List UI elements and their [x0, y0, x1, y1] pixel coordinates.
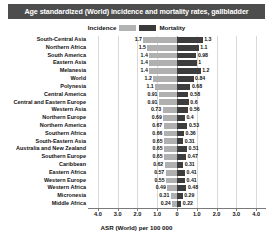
value-label-mortality: 0.4: [186, 114, 193, 122]
value-label-incidence: 0.73: [151, 106, 161, 114]
bar-incidence: [164, 146, 177, 152]
bar-mortality: [177, 185, 186, 191]
bar-area: 1.10.68: [88, 83, 266, 91]
value-label-mortality: 0.68: [192, 83, 202, 91]
chart-legend: Incidence Mortality: [0, 24, 273, 31]
axis-tick-label: 0: [175, 211, 178, 217]
bar-area: 0.620.31: [88, 161, 266, 169]
bar-area: 0.550.41: [88, 177, 266, 185]
chart-row: Eastern Asia1.41: [0, 59, 273, 67]
value-label-incidence: 0.55: [155, 177, 165, 185]
bar-incidence: [166, 178, 177, 184]
axis-tick-label: 3.0: [232, 211, 240, 217]
value-label-incidence: 1.4: [141, 59, 148, 67]
chart-row: Central and Eastern Europe0.910.6: [0, 99, 273, 107]
x-axis: 4.03.02.01.001.02.03.04.0: [88, 208, 266, 209]
bar-rows: South-Central Asia1.71.3Northern Africa1…: [0, 36, 273, 208]
value-label-incidence: 1.2: [145, 75, 152, 83]
bar-mortality: [177, 131, 184, 137]
chart-row: Micronesia0.310.29: [0, 192, 273, 200]
value-label-mortality: 0.31: [185, 138, 195, 146]
bar-mortality: [177, 76, 194, 82]
bar-incidence: [149, 60, 177, 66]
category-label: World: [0, 75, 86, 83]
value-label-incidence: 1.7: [135, 36, 142, 44]
bar-incidence: [155, 84, 177, 90]
bar-incidence: [149, 53, 177, 59]
bar-area: 0.670.53: [88, 122, 266, 130]
chart-row: Western Africa0.490.48: [0, 184, 273, 192]
bar-incidence: [166, 170, 177, 176]
value-label-incidence: 0.62: [153, 161, 163, 169]
value-label-incidence: 0.65: [153, 153, 163, 161]
category-label: Southern Europe: [0, 153, 86, 161]
bar-area: 1.20.84: [88, 75, 266, 83]
chart-row: Polynesia1.10.68: [0, 83, 273, 91]
category-label: Southern Africa: [0, 130, 86, 138]
category-label: Northern Africa: [0, 44, 86, 52]
category-label: Australia and New Zealand: [0, 145, 86, 153]
bar-mortality: [177, 170, 185, 176]
category-label: Eastern Africa: [0, 169, 86, 177]
bar-area: 0.730.56: [88, 106, 266, 114]
chart-row: Southern Africa0.660.36: [0, 130, 273, 138]
legend-label-mortality: Mortality: [159, 24, 185, 31]
bar-mortality: [177, 193, 183, 199]
category-label: Eastern Asia: [0, 59, 86, 67]
bar-area: 0.490.48: [88, 184, 266, 192]
axis-tick-label: 3.0: [114, 211, 122, 217]
bar-mortality: [177, 84, 190, 90]
category-label: Western Africa: [0, 184, 86, 192]
bar-incidence: [163, 107, 177, 113]
bar-incidence: [164, 138, 177, 144]
bar-mortality: [177, 115, 185, 121]
value-label-mortality: 0.48: [188, 184, 198, 192]
category-label: Central America: [0, 91, 86, 99]
category-label: Northern Europe: [0, 114, 86, 122]
value-label-incidence: 0.65: [153, 138, 163, 146]
legend-label-incidence: Incidence: [88, 24, 117, 31]
bar-incidence: [147, 45, 177, 51]
value-label-mortality: 1: [198, 59, 201, 67]
bar-mortality: [177, 138, 183, 144]
category-label: Micronesia: [0, 192, 86, 200]
bar-area: 0.310.29: [88, 192, 266, 200]
bar-area: 1.41.2: [88, 67, 266, 75]
bar-area: 0.910.6: [88, 99, 266, 107]
bar-area: 0.660.36: [88, 130, 266, 138]
chart-row: Australia and New Zealand0.650.51: [0, 145, 273, 153]
value-label-incidence: 0.57: [154, 169, 164, 177]
bar-area: 0.650.51: [88, 145, 266, 153]
bar-mortality: [177, 99, 189, 105]
chart-row: World1.20.84: [0, 75, 273, 83]
value-label-incidence: 0.65: [153, 145, 163, 153]
bar-mortality: [177, 60, 197, 66]
value-label-incidence: 1.4: [141, 67, 148, 75]
chart-container: Age standardized (World) incidence and m…: [0, 0, 273, 237]
category-label: South America: [0, 52, 86, 60]
bar-area: 1.51.1: [88, 44, 266, 52]
bar-incidence: [159, 92, 177, 98]
category-label: Caribbean: [0, 161, 86, 169]
chart-row: Western Europe0.550.41: [0, 177, 273, 185]
value-label-mortality: 0.22: [183, 200, 193, 208]
bar-area: 0.650.31: [88, 138, 266, 146]
value-label-mortality: 1.3: [204, 36, 211, 44]
value-label-incidence: 1.5: [139, 44, 146, 52]
value-label-incidence: 1.4: [141, 52, 148, 60]
bar-mortality: [177, 178, 185, 184]
chart-row: Northern America0.670.53: [0, 122, 273, 130]
category-label: Central and Eastern Europe: [0, 99, 86, 107]
value-label-mortality: 0.56: [190, 106, 200, 114]
value-label-incidence: 0.91: [147, 99, 157, 107]
category-label: Middle Africa: [0, 200, 86, 208]
bar-area: 0.570.41: [88, 169, 266, 177]
bar-mortality: [177, 154, 186, 160]
value-label-mortality: 0.53: [189, 122, 199, 130]
value-label-mortality: 0.6: [190, 99, 197, 107]
bar-mortality: [177, 92, 188, 98]
category-label: Polynesia: [0, 83, 86, 91]
chart-row: Melanesia1.41.2: [0, 67, 273, 75]
value-label-mortality: 0.41: [187, 177, 197, 185]
axis-tick-label: 2.0: [213, 211, 221, 217]
